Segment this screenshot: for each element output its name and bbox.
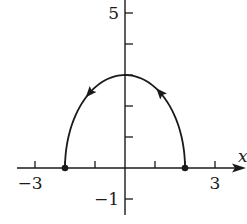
start-point-marker	[182, 165, 189, 172]
chart-canvas: −335−1x	[0, 0, 247, 224]
x-tick-label: 3	[210, 173, 221, 193]
y-tick-label: −1	[94, 189, 119, 209]
x-axis-label: x	[238, 146, 247, 166]
x-tick-label: −3	[17, 173, 42, 193]
end-point-marker	[62, 165, 69, 172]
y-tick-label: 5	[108, 3, 119, 23]
